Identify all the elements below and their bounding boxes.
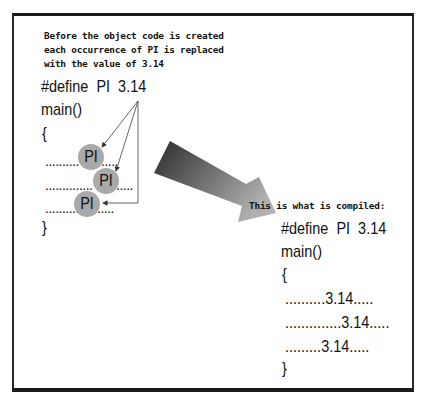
right-close-brace: } <box>282 359 287 379</box>
right-line-1: ..........3.14..... <box>285 289 373 309</box>
right-main-line: main() <box>281 242 322 262</box>
right-line-3: .........3.14..... <box>285 337 369 357</box>
right-line-2: ..............3.14..... <box>285 313 389 333</box>
compiled-caption: This is what is compiled: <box>249 200 385 211</box>
replacement-pointer-lines <box>102 101 138 203</box>
right-define-line: #define PI 3.14 <box>281 219 386 239</box>
right-open-brace: { <box>282 265 287 285</box>
